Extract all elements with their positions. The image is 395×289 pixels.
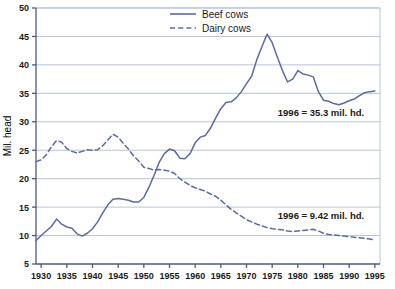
xtick-label-1945: 1945	[108, 271, 128, 281]
ytick-label-50: 50	[19, 3, 29, 13]
y-axis-title: Mil. head	[2, 116, 13, 157]
ytick-label-15: 15	[19, 203, 29, 213]
xtick-label-1950: 1950	[134, 271, 154, 281]
ytick-label-20: 20	[19, 174, 29, 184]
xtick-label-1975: 1975	[262, 271, 282, 281]
ytick-label-5: 5	[24, 259, 29, 269]
xtick-label-1955: 1955	[159, 271, 179, 281]
xtick-label-1990: 1990	[339, 271, 359, 281]
ytick-label-45: 45	[19, 32, 29, 42]
legend-label-beef-cows: Beef cows	[202, 9, 248, 20]
xtick-label-1935: 1935	[57, 271, 77, 281]
xtick-label-1960: 1960	[185, 271, 205, 281]
xtick-label-1970: 1970	[236, 271, 256, 281]
xtick-label-1965: 1965	[211, 271, 231, 281]
legend-label-dairy-cows: Dairy cows	[202, 23, 251, 34]
chart-figure: 5101520253035404550193019351940194519501…	[0, 0, 395, 289]
ytick-label-30: 30	[19, 117, 29, 127]
xtick-label-1940: 1940	[82, 271, 102, 281]
ytick-label-25: 25	[19, 146, 29, 156]
annotation-2: 1996 = 9.42 mil. hd.	[278, 210, 364, 221]
xtick-label-1980: 1980	[288, 271, 308, 281]
xtick-label-1995: 1995	[365, 271, 385, 281]
xtick-label-1930: 1930	[31, 271, 51, 281]
xtick-label-1985: 1985	[314, 271, 334, 281]
chart-canvas: 5101520253035404550193019351940194519501…	[0, 0, 395, 289]
ytick-label-10: 10	[19, 231, 29, 241]
ytick-label-35: 35	[19, 89, 29, 99]
ytick-label-40: 40	[19, 60, 29, 70]
annotation-1: 1996 = 35.3 mil. hd.	[278, 107, 364, 118]
